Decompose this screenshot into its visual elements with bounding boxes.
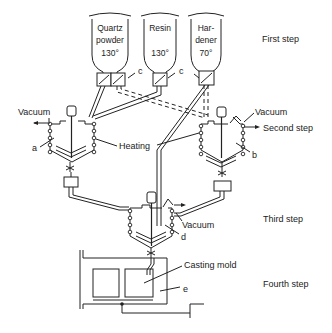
hopper-quartz-line1: Quartz — [97, 23, 123, 33]
label-c-2: c — [179, 66, 184, 76]
hopper-hardener-line2: dener — [195, 35, 217, 45]
hopper-hardener-line1: Har- — [198, 23, 215, 33]
step-first: First step — [262, 34, 299, 44]
hopper-hardener-line3: 70° — [200, 48, 213, 58]
hopper-quartz-powder: Quartz powder 130° — [89, 13, 131, 76]
label-b: b — [252, 150, 257, 160]
process-diagram: Quartz powder 130° Resin 130° Har- dener… — [0, 0, 332, 333]
hopper-quartz-line2: powder — [96, 35, 124, 45]
hopper-hardener: Har- dener 70° — [188, 13, 224, 76]
hopper-resin-line3: 130° — [151, 48, 169, 58]
label-a: a — [32, 143, 37, 153]
step-fourth: Fourth step — [263, 279, 309, 289]
hopper-quartz-line3: 130° — [101, 48, 119, 58]
label-vacuum-center: Vacuum — [182, 220, 214, 230]
transfer-pipes — [69, 187, 224, 216]
mixer-right — [199, 107, 260, 191]
dosing-valves — [97, 71, 214, 86]
label-vacuum-right: Vacuum — [255, 107, 287, 117]
label-c-1: c — [138, 66, 143, 76]
label-heating: Heating — [119, 141, 150, 151]
label-d: d — [181, 232, 186, 242]
label-vacuum-left: Vacuum — [18, 107, 50, 117]
step-second: Second step — [263, 123, 313, 133]
label-e: e — [183, 284, 188, 294]
mixer-left — [33, 106, 96, 187]
step-third: Third step — [263, 214, 303, 224]
hopper-resin-line1: Resin — [149, 23, 171, 33]
hopper-resin: Resin 130° — [141, 13, 179, 76]
label-casting-mold: Casting mold — [184, 260, 237, 270]
